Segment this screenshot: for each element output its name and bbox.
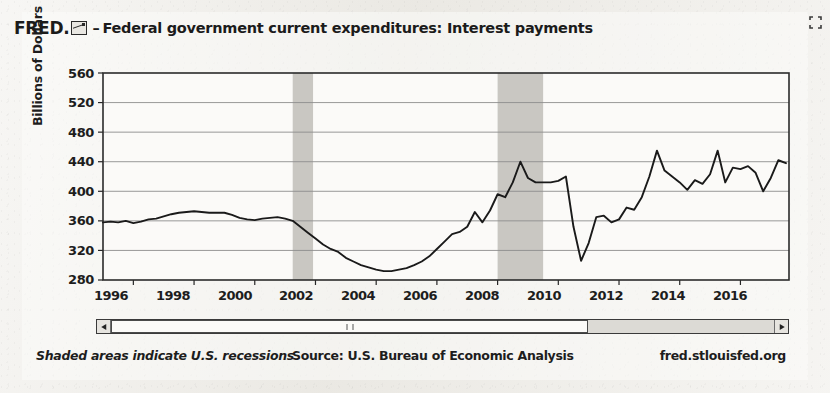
- scrollbar-track[interactable]: [111, 320, 774, 333]
- chart-plot-area: Billions of Dollars 560 520 480 440 400 …: [0, 0, 830, 393]
- source-note: Source: U.S. Bureau of Economic Analysis: [292, 348, 574, 363]
- date-range-scrollbar[interactable]: [96, 319, 789, 334]
- arrow-right-icon[interactable]: [774, 320, 788, 333]
- arrow-left-icon[interactable]: [97, 320, 111, 333]
- chart-canvas: [0, 0, 830, 393]
- plot-background: [103, 73, 789, 280]
- chart-footer: Shaded areas indicate U.S. recessions So…: [36, 348, 796, 368]
- recession-band: [293, 73, 313, 280]
- recession-band: [498, 73, 544, 280]
- scrollbar-thumb[interactable]: [111, 320, 588, 333]
- fred-url[interactable]: fred.stlouisfed.org: [660, 348, 786, 363]
- grip-handle-icon: [346, 324, 353, 330]
- recessions-note: Shaded areas indicate U.S. recessions: [36, 348, 294, 363]
